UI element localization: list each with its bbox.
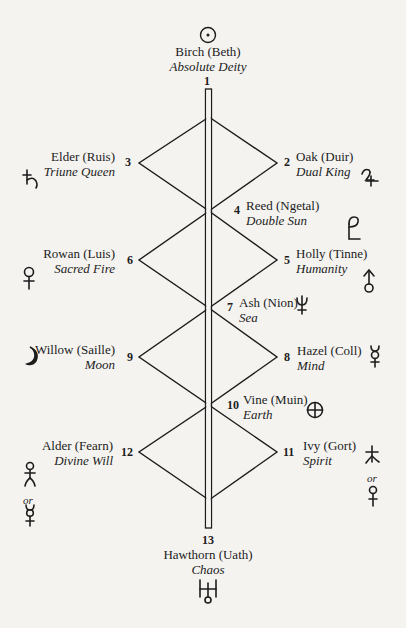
node-meaning: Moon bbox=[35, 357, 115, 372]
node-name: Elder (Ruis) bbox=[44, 149, 115, 164]
ogham-diagram: Birch (Beth) Absolute Deity 1 Elder (Rui… bbox=[0, 0, 406, 628]
node-meaning: Sacred Fire bbox=[43, 261, 115, 276]
node-9-label: Willow (Saille) Moon bbox=[35, 342, 115, 372]
node-name: Birch (Beth) bbox=[158, 44, 258, 59]
node-name: Rowan (Luis) bbox=[43, 246, 115, 261]
cropped-running-header bbox=[118, 0, 298, 2]
earth-icon bbox=[308, 403, 323, 418]
node-1-label: Birch (Beth) Absolute Deity bbox=[158, 44, 258, 74]
node-meaning: Chaos bbox=[143, 562, 273, 577]
node-meaning: Double Sun bbox=[246, 213, 319, 228]
node-meaning: Sea bbox=[239, 310, 298, 325]
uranus-icon bbox=[200, 580, 216, 603]
mercury-icon bbox=[371, 346, 379, 367]
mercury-alt-icon bbox=[26, 505, 34, 526]
node-8-label: Hazel (Coll) Mind bbox=[297, 343, 362, 373]
node-7-label: Ash (Nion) Sea bbox=[239, 295, 298, 325]
jupiter-icon bbox=[362, 170, 378, 187]
ceres-icon bbox=[366, 446, 379, 463]
node-6-label: Rowan (Luis) Sacred Fire bbox=[43, 246, 115, 276]
node-meaning: Spirit bbox=[303, 453, 356, 468]
sun-icon bbox=[201, 28, 216, 43]
node-name: Vine (Muin) bbox=[243, 392, 308, 407]
node-number-1: 1 bbox=[204, 74, 210, 88]
node-meaning: Mind bbox=[297, 358, 362, 373]
node-meaning: Absolute Deity bbox=[158, 59, 258, 74]
node-number-7: 7 bbox=[227, 300, 233, 314]
node-number-13: 13 bbox=[202, 533, 214, 547]
node-name: Oak (Duir) bbox=[296, 149, 353, 164]
pluto-icon bbox=[349, 217, 360, 239]
node-name: Hawthorn (Uath) bbox=[143, 547, 273, 562]
node-number-10: 10 bbox=[227, 398, 239, 412]
venus-alt-icon bbox=[369, 487, 377, 507]
node-name: Ash (Nion) bbox=[239, 295, 298, 310]
node-number-8: 8 bbox=[284, 350, 290, 364]
or-connector-right: or bbox=[367, 472, 377, 484]
node-3-label: Elder (Ruis) Triune Queen bbox=[44, 149, 115, 179]
node-5-label: Holly (Tinne) Humanity bbox=[296, 246, 367, 276]
node-10-label: Vine (Muin) Earth bbox=[243, 392, 308, 422]
node-2-label: Oak (Duir) Dual King bbox=[296, 149, 353, 179]
node-number-2: 2 bbox=[284, 155, 290, 169]
juno-icon bbox=[25, 463, 35, 487]
node-number-11: 11 bbox=[283, 445, 294, 459]
node-name: Willow (Saille) bbox=[35, 342, 115, 357]
node-name: Alder (Fearn) bbox=[42, 438, 113, 453]
node-name: Reed (Ngetal) bbox=[246, 198, 319, 213]
node-4-label: Reed (Ngetal) Double Sun bbox=[246, 198, 319, 228]
or-connector-left: or bbox=[23, 494, 33, 506]
node-number-4: 4 bbox=[234, 203, 240, 217]
node-number-12: 12 bbox=[121, 445, 133, 459]
venus-icon bbox=[24, 268, 34, 290]
node-meaning: Earth bbox=[243, 407, 308, 422]
node-name: Holly (Tinne) bbox=[296, 246, 367, 261]
neptune-icon bbox=[297, 296, 307, 314]
saturn-icon bbox=[23, 170, 37, 188]
node-number-9: 9 bbox=[127, 350, 133, 364]
node-name: Ivy (Gort) bbox=[303, 438, 356, 453]
node-number-6: 6 bbox=[127, 253, 133, 267]
node-12-label: Alder (Fearn) Divine Will bbox=[42, 438, 113, 468]
node-11-label: Ivy (Gort) Spirit bbox=[303, 438, 356, 468]
node-meaning: Triune Queen bbox=[44, 164, 115, 179]
node-meaning: Dual King bbox=[296, 164, 353, 179]
node-number-5: 5 bbox=[284, 253, 290, 267]
node-meaning: Divine Will bbox=[42, 453, 113, 468]
node-13-label: Hawthorn (Uath) Chaos bbox=[143, 547, 273, 577]
node-number-3: 3 bbox=[125, 155, 131, 169]
node-meaning: Humanity bbox=[296, 261, 367, 276]
node-name: Hazel (Coll) bbox=[297, 343, 362, 358]
